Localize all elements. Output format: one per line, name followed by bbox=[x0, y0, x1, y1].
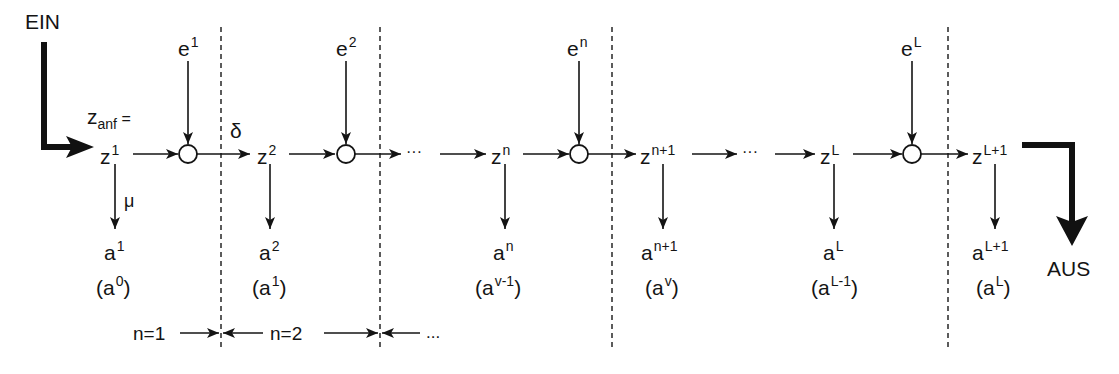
state-zL: zL bbox=[820, 146, 839, 167]
state-zn1: zn+1 bbox=[640, 146, 675, 167]
output-aL: aL bbox=[823, 242, 843, 263]
node-L bbox=[903, 145, 921, 163]
input-arrows bbox=[188, 61, 912, 144]
flow-ellipsis-1: ··· bbox=[406, 144, 422, 160]
diagram-canvas: EIN zanf = δ μ z1 z2 zn zn+1 zL zL+1 ···… bbox=[0, 0, 1119, 374]
stage-label-more: ... bbox=[426, 324, 440, 341]
output-an1-alt: (av) bbox=[645, 277, 679, 298]
flow-ellipsis-2: ··· bbox=[742, 144, 758, 160]
output-an-alt: (av-1) bbox=[475, 277, 521, 298]
initial-state-sub: anf bbox=[98, 116, 117, 132]
stage-label-1: n=1 bbox=[133, 324, 165, 343]
diagram-graphics bbox=[0, 0, 1119, 374]
output-a1: a1 bbox=[104, 242, 124, 263]
output-aL1: aL+1 bbox=[972, 242, 1008, 263]
node-1 bbox=[179, 145, 197, 163]
output-aL-alt: (aL-1) bbox=[811, 277, 858, 298]
output-arrow bbox=[1022, 145, 1088, 246]
initial-state-base: z bbox=[87, 105, 98, 128]
input-en: en bbox=[567, 38, 587, 59]
input-eL: eL bbox=[901, 38, 921, 59]
transition-label: δ bbox=[230, 120, 242, 141]
output-function-label: μ bbox=[124, 192, 134, 210]
state-z2: z2 bbox=[257, 146, 276, 167]
state-zn: zn bbox=[491, 146, 510, 167]
output-an1: an+1 bbox=[641, 242, 677, 263]
stage-label-2: n=2 bbox=[270, 324, 302, 343]
initial-state-suffix: = bbox=[117, 110, 131, 127]
output-aL1-alt: (aL) bbox=[976, 277, 1010, 298]
input-arrow bbox=[44, 42, 94, 158]
input-e1: e1 bbox=[178, 38, 198, 59]
output-a1-alt: (a0) bbox=[96, 277, 130, 298]
output-label: AUS bbox=[1047, 258, 1090, 279]
state-z1: z1 bbox=[100, 146, 119, 167]
state-zL1: zL+1 bbox=[972, 146, 1007, 167]
node-n bbox=[570, 145, 588, 163]
input-e2: e2 bbox=[336, 38, 356, 59]
node-2 bbox=[337, 145, 355, 163]
stage-separators bbox=[221, 27, 948, 348]
output-an: an bbox=[493, 242, 513, 263]
output-a2: a2 bbox=[259, 242, 279, 263]
output-a2-alt: (a1) bbox=[252, 277, 286, 298]
input-label: EIN bbox=[25, 11, 60, 32]
initial-state-label: zanf = bbox=[87, 106, 131, 127]
output-arrows bbox=[115, 164, 995, 229]
